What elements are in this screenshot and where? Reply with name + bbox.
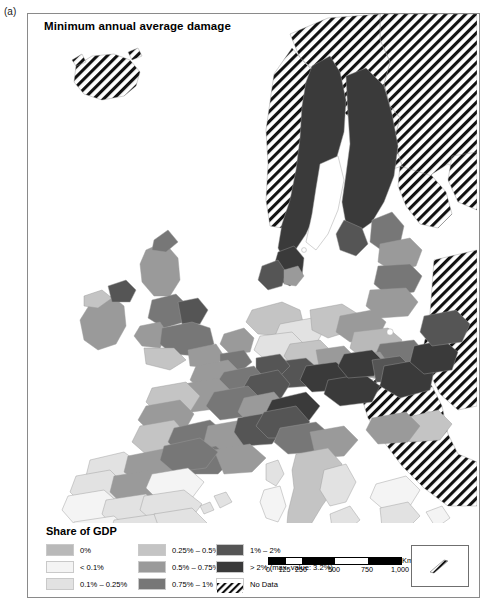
legend-item[interactable]: 0.5% – 0.75% [138, 560, 219, 574]
legend-label: 1% – 2% [250, 546, 280, 555]
legend-swatch-0-75-to-1-pct [138, 578, 166, 590]
scale-bar-track [268, 557, 402, 565]
map-inset-box[interactable] [411, 545, 469, 587]
legend-swatch-1-to-2-pct [216, 544, 244, 556]
legend-swatch-0-5-to-0-75-pct [138, 561, 166, 573]
legend-label: 0.25% – 0.5% [172, 546, 219, 555]
legend-swatch-gt-2-pct [216, 561, 244, 573]
panel-label: (a) [4, 6, 16, 17]
legend-item[interactable]: 0.25% – 0.5% [138, 543, 219, 557]
inset-hatch-icon [426, 558, 452, 574]
legend-item[interactable]: 0.1% – 0.25% [46, 577, 127, 591]
hatch-pattern-icon [217, 583, 243, 593]
scale-tick: 750 [361, 565, 373, 574]
legend-label: < 0.1% [80, 563, 104, 572]
choropleth-map[interactable] [28, 14, 477, 595]
figure-panel: (a) [0, 0, 481, 613]
legend-label: 0% [80, 546, 91, 555]
map-title: Minimum annual average damage [44, 20, 231, 32]
legend-column-2: 0.25% – 0.5% 0.5% – 0.75% 0.75% – 1% [138, 543, 219, 594]
map-frame: Share of GDP 0% < 0.1% 0.1% – 0.25% [27, 13, 480, 598]
legend-label: 0.5% – 0.75% [172, 563, 219, 572]
legend-title: Share of GDP [46, 525, 117, 537]
legend-swatch-0-25-to-0-5-pct [138, 544, 166, 556]
legend-swatch-lt-0-1-pct [46, 561, 74, 573]
legend-item[interactable]: < 0.1% [46, 560, 127, 574]
legend-item[interactable]: 0% [46, 543, 127, 557]
scale-tick: 125 [279, 565, 291, 574]
legend-swatch-0-1-to-0-25-pct [46, 578, 74, 590]
scale-tick: 250 [295, 565, 307, 574]
legend-item[interactable]: 1% – 2% [216, 543, 333, 557]
legend-swatch-no-data [216, 578, 244, 590]
legend-item[interactable]: 0.75% – 1% [138, 577, 219, 591]
scale-bar: Km 0 125 250 500 750 1,000 [260, 557, 412, 583]
scale-tick: 0 [266, 565, 270, 574]
legend-label: 0.1% – 0.25% [80, 580, 127, 589]
legend-label: 0.75% – 1% [172, 580, 213, 589]
legend: Share of GDP 0% < 0.1% 0.1% – 0.25% [28, 523, 477, 597]
scale-tick: 500 [328, 565, 340, 574]
legend-column-1: 0% < 0.1% 0.1% – 0.25% [46, 543, 127, 594]
legend-swatch-0-pct [46, 544, 74, 556]
scale-tick: 1,000 [391, 565, 409, 574]
